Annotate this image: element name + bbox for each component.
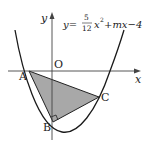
x-axis-label: x — [135, 73, 142, 86]
triangle-abc — [29, 71, 99, 122]
svg-text:12: 12 — [82, 24, 92, 33]
y-axis-label: y — [40, 12, 48, 25]
svg-text:5: 5 — [84, 13, 89, 22]
point-b-label: B — [43, 121, 51, 134]
svg-text:+mx−4: +mx−4 — [104, 19, 142, 30]
svg-text:y=: y= — [62, 19, 77, 30]
origin-label: O — [54, 58, 63, 71]
y-axis-arrow-icon — [50, 12, 55, 19]
point-c-label: C — [101, 91, 109, 104]
parabola-equation: y= 5 12 x 2 +mx−4 — [62, 13, 142, 33]
point-a-label: A — [18, 70, 28, 83]
parabola-triangle-diagram: y x O A B C y= 5 12 x 2 +mx−4 — [0, 0, 155, 147]
parabola-curve — [15, 30, 124, 132]
